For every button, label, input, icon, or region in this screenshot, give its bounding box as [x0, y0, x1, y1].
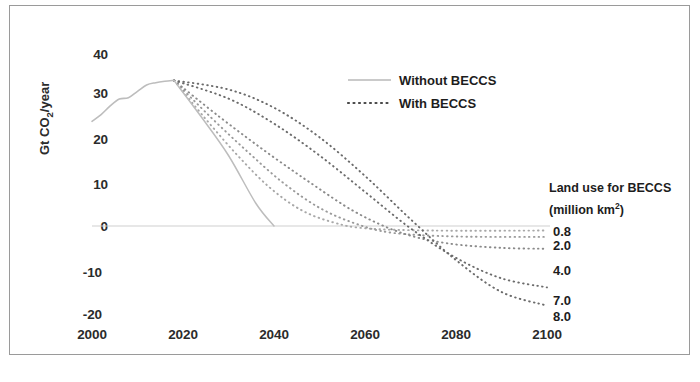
series-line-4-0 — [174, 80, 547, 248]
chart-plot-area — [0, 0, 700, 382]
series-line-8-0 — [174, 80, 547, 305]
historical-emissions-line — [92, 80, 174, 121]
series-line-without-beccs — [174, 80, 274, 226]
series-line-7-0 — [174, 80, 547, 287]
